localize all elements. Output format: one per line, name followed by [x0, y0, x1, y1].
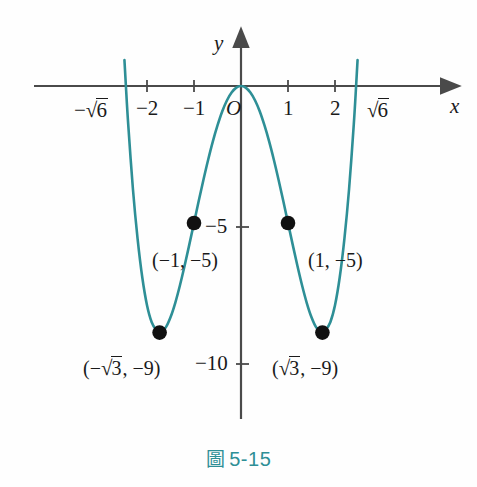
- point-label-right-min: (√3, −9): [272, 356, 338, 379]
- point-label-left-min: (−√3, −9): [83, 356, 160, 379]
- radicand-6: 6: [378, 98, 390, 121]
- x-tick-label--2: −2: [136, 98, 158, 119]
- point-right-min: [315, 325, 330, 340]
- x-tick-label-1: 1: [283, 98, 294, 119]
- figure-caption: 圖5-15: [0, 444, 477, 471]
- y-axis-label: y: [214, 33, 223, 54]
- caption-mark-glyph: 圖: [206, 448, 226, 470]
- y-tick-label--10: −10: [195, 353, 228, 374]
- radicand-3: 3: [111, 356, 122, 378]
- x-tick-label--1: −1: [183, 98, 205, 119]
- point-right-5: [281, 216, 296, 231]
- label-rest: , −9): [122, 357, 160, 379]
- point-left-5: [187, 216, 202, 231]
- point-label-left-5: (−1, −5): [152, 250, 218, 270]
- origin-label: O: [226, 98, 241, 119]
- coordinate-plot: [0, 0, 477, 487]
- figure-container: −√6 −2 −1 O 1 2 √6 x y −5 −10 (−1, −5) (…: [0, 0, 477, 487]
- label-rest: , −9): [300, 357, 338, 379]
- y-tick-label--5: −5: [205, 216, 227, 237]
- x-tick-label-neg-sqrt6: −√6: [74, 98, 108, 121]
- caption-number: 5-15: [229, 448, 271, 470]
- point-left-min: [152, 325, 167, 340]
- x-axis-label: x: [450, 96, 459, 117]
- radicand-3: 3: [289, 356, 300, 378]
- x-tick-label-2: 2: [330, 98, 341, 119]
- point-label-right-5: (1, −5): [308, 250, 363, 270]
- radicand-6: 6: [96, 98, 108, 121]
- x-tick-label-sqrt6: √6: [367, 98, 389, 121]
- minus-sign: −: [74, 98, 86, 122]
- paren-open-minus: (−: [83, 357, 101, 379]
- paren-open: (: [272, 357, 279, 379]
